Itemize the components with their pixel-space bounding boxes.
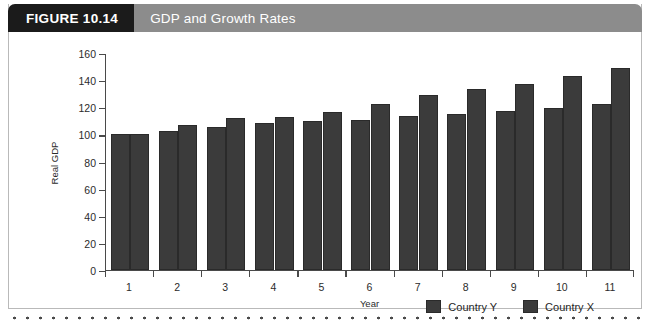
x-axis-title: Year — [360, 298, 379, 309]
y-tick-mark — [99, 108, 105, 109]
bar-group-year-1 — [106, 54, 154, 270]
bar-country-y-year-3 — [207, 127, 226, 270]
bar-country-x-year-3 — [226, 118, 245, 270]
bars-layer — [106, 54, 634, 270]
x-tick-mark-end — [633, 271, 634, 277]
y-tick-label: 80 — [84, 157, 96, 169]
y-tick-label: 160 — [78, 48, 96, 60]
bar-group-year-6 — [346, 54, 394, 270]
bar-country-y-year-8 — [447, 114, 466, 269]
bar-group-year-7 — [395, 54, 443, 270]
x-tick-mark — [490, 271, 491, 277]
bar-group-year-5 — [298, 54, 346, 270]
y-tick-mark — [99, 54, 105, 55]
x-tick-mark — [345, 271, 346, 277]
y-axis-title: Real GDP — [49, 141, 60, 184]
bar-country-y-year-5 — [303, 121, 322, 270]
y-tick-mark — [99, 217, 105, 218]
bar-country-y-year-11 — [592, 104, 611, 269]
bar-country-y-year-10 — [544, 108, 563, 270]
x-tick-label-10: 10 — [556, 281, 568, 293]
bar-group-year-3 — [202, 54, 250, 270]
bar-group-year-9 — [491, 54, 539, 270]
x-tick-mark — [153, 271, 154, 277]
bar-country-x-year-6 — [371, 104, 390, 269]
x-tick-label-3: 3 — [222, 281, 228, 293]
x-tick-mark — [394, 271, 395, 277]
bar-group-year-10 — [539, 54, 587, 270]
figure-title: GDP and Growth Rates — [134, 4, 642, 32]
y-tick-label: 140 — [78, 75, 96, 87]
plot-area: Real GDP 020406080100120140160 123456789… — [105, 54, 634, 271]
y-tick-mark — [99, 135, 105, 136]
x-tick-label-6: 6 — [367, 281, 373, 293]
figure-header: FIGURE 10.14 GDP and Growth Rates — [8, 4, 642, 32]
bar-country-x-year-5 — [323, 112, 342, 269]
bar-country-y-year-7 — [399, 116, 418, 270]
x-tick-mark — [442, 271, 443, 277]
x-tick-label-7: 7 — [415, 281, 421, 293]
bar-country-x-year-4 — [275, 117, 294, 270]
x-tick-mark — [538, 271, 539, 277]
legend-item-country-y[interactable]: Country Y — [426, 300, 497, 313]
x-tick-label-8: 8 — [463, 281, 469, 293]
x-tick-label-5: 5 — [318, 281, 324, 293]
legend-label: Country Y — [448, 301, 497, 313]
bar-group-year-8 — [443, 54, 491, 270]
bar-group-year-2 — [154, 54, 202, 270]
y-tick-mark — [99, 190, 105, 191]
x-tick-mark — [297, 271, 298, 277]
bar-group-year-4 — [250, 54, 298, 270]
bar-country-x-year-9 — [515, 84, 534, 270]
x-tick-label-4: 4 — [270, 281, 276, 293]
y-tick-label: 60 — [84, 184, 96, 196]
legend-label: Country X — [545, 301, 594, 313]
bar-country-y-year-6 — [351, 120, 370, 270]
y-tick-label: 20 — [84, 238, 96, 250]
y-tick-mark — [99, 244, 105, 245]
x-tick-mark — [249, 271, 250, 277]
y-tick-label: 40 — [84, 211, 96, 223]
legend-swatch-icon — [523, 300, 538, 313]
x-tick-label-1: 1 — [126, 281, 132, 293]
bar-country-y-year-4 — [255, 123, 274, 269]
x-axis-line — [105, 270, 634, 271]
bar-country-x-year-11 — [611, 68, 630, 269]
bar-country-y-year-2 — [159, 131, 178, 269]
legend-item-country-x[interactable]: Country X — [523, 300, 594, 313]
chart-legend: Country YCountry X — [426, 300, 594, 313]
x-tick-label-11: 11 — [605, 281, 616, 293]
bar-country-x-year-1 — [130, 134, 149, 270]
y-tick-mark — [99, 81, 105, 82]
figure-number-label: FIGURE 10.14 — [8, 4, 134, 32]
x-tick-label-9: 9 — [511, 281, 517, 293]
legend-swatch-icon — [426, 300, 441, 313]
bar-group-year-11 — [587, 54, 635, 270]
x-tick-label-2: 2 — [174, 281, 180, 293]
bar-country-x-year-8 — [467, 89, 486, 269]
bar-country-x-year-7 — [419, 95, 438, 269]
x-tick-mark — [201, 271, 202, 277]
bar-country-y-year-1 — [111, 134, 130, 270]
bottom-dotted-rule — [8, 316, 642, 320]
x-tick-mark — [586, 271, 587, 277]
x-tick-mark — [105, 271, 106, 277]
chart-region: Real GDP 020406080100120140160 123456789… — [8, 32, 642, 309]
bar-country-x-year-10 — [563, 76, 582, 269]
y-tick-label: 0 — [90, 265, 96, 277]
bar-country-x-year-2 — [178, 125, 197, 270]
bar-country-y-year-9 — [496, 111, 515, 270]
y-tick-label: 100 — [78, 129, 96, 141]
y-tick-mark — [99, 163, 105, 164]
y-tick-label: 120 — [78, 102, 96, 114]
